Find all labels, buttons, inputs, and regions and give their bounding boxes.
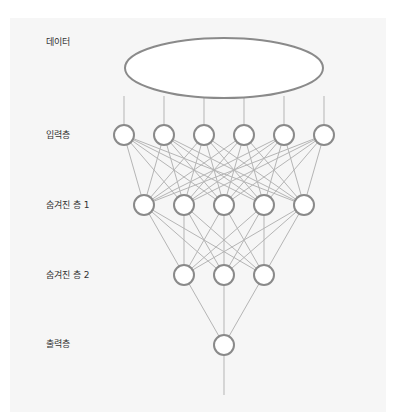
input-node [274, 125, 294, 145]
hidden1-node [174, 195, 194, 215]
hidden1-node [294, 195, 314, 215]
connection-line [144, 135, 244, 205]
connection-line [224, 135, 324, 205]
layer-label-output: 출력층 [46, 338, 70, 350]
connection-line [264, 135, 324, 205]
connection-line [264, 205, 304, 275]
connection-line [224, 275, 264, 345]
hidden1-node [214, 195, 234, 215]
layer-label-data: 데이터 [46, 36, 70, 48]
layer-label-hidden-2: 숨겨진 층 2 [46, 269, 89, 281]
connection-line [144, 135, 324, 205]
data-ellipse [125, 38, 323, 98]
input-node [194, 125, 214, 145]
connection-line [184, 205, 304, 275]
input-node [114, 125, 134, 145]
hidden1-node [254, 195, 274, 215]
input-node [234, 125, 254, 145]
connection-line [144, 205, 184, 275]
input-node [314, 125, 334, 145]
hidden2-node [174, 265, 194, 285]
connection-line [184, 275, 224, 345]
hidden2-node [254, 265, 274, 285]
output-node [214, 335, 234, 355]
layer-label-hidden-1: 숨겨진 층 1 [46, 199, 89, 211]
hidden2-node [214, 265, 234, 285]
layer-label-input: 입력층 [46, 129, 70, 141]
hidden1-node [134, 195, 154, 215]
input-node [154, 125, 174, 145]
